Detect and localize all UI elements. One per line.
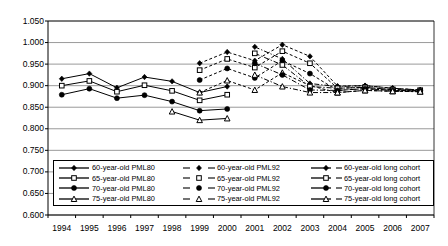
legend-item-label: 60-year-old long cohort [344, 164, 420, 171]
chart-legend: 60-year-old PML8060-year-old PML9260-yea… [53, 160, 434, 206]
legend-item-label: 70-year-old long cohort [344, 185, 420, 192]
y-axis-tick-label: 0.800 [6, 124, 44, 133]
legend-item[interactable]: 70-year-old PML80 [57, 183, 182, 193]
legend-item[interactable]: 75-year-old PML92 [182, 194, 309, 204]
data-point-marker-circle [252, 61, 257, 66]
legend-sample-line [182, 183, 216, 193]
data-point-marker-square [170, 89, 175, 94]
data-point-marker-square [280, 49, 285, 54]
data-point-marker-diamond [324, 165, 329, 170]
legend-sample-line [57, 194, 91, 204]
legend-item[interactable]: 70-year-old PML92 [182, 183, 309, 193]
legend-item[interactable]: 75-year-old PML80 [57, 194, 182, 204]
data-point-marker-square [115, 89, 120, 94]
data-point-marker-square [197, 68, 202, 73]
data-point-marker-square [324, 176, 329, 181]
legend-item-label: 65-year-old long cohort [344, 175, 420, 182]
x-axis-tick-label: 1994 [48, 224, 76, 233]
chart-container: 0.6000.6500.7000.7500.8000.8500.9000.950… [0, 0, 448, 246]
legend-item-label: 65-year-old PML92 [217, 175, 280, 182]
data-point-marker-circle [197, 78, 202, 83]
legend-sample-line [57, 163, 91, 173]
x-axis-tick-label: 1995 [75, 224, 103, 233]
legend-sample-line [182, 173, 216, 183]
legend-item-label: 75-year-old PML80 [92, 195, 155, 202]
data-point-marker-square [252, 51, 257, 56]
legend-item-label: 70-year-old PML92 [217, 185, 280, 192]
y-axis-tick-label: 0.750 [6, 146, 44, 155]
x-axis-tick-label: 2004 [324, 224, 352, 233]
data-point-marker-square [225, 57, 230, 62]
legend-sample-line [182, 194, 216, 204]
x-axis-tick-label: 2002 [268, 224, 296, 233]
y-axis-tick-label: 0.600 [6, 211, 44, 220]
x-axis-tick-label: 2003 [296, 224, 324, 233]
line-chart-plot [0, 0, 448, 246]
legend-item-label: 60-year-old PML92 [217, 164, 280, 171]
data-point-marker-circle [197, 108, 202, 113]
legend-item[interactable]: 65-year-old PML92 [182, 173, 309, 183]
data-point-marker-circle [307, 71, 312, 76]
data-point-marker-square [225, 92, 230, 97]
y-axis-tick-label: 1.050 [6, 17, 44, 26]
legend-sample-line [182, 163, 216, 173]
legend-sample-line [57, 183, 91, 193]
x-axis-tick-label: 2007 [406, 224, 434, 233]
data-point-marker-circle [114, 96, 119, 101]
x-axis-tick-label: 1997 [131, 224, 159, 233]
data-point-marker-circle [225, 66, 230, 71]
data-point-marker-circle [280, 72, 285, 77]
legend-item[interactable]: 60-year-old long cohort [309, 163, 432, 173]
legend-item[interactable]: 60-year-old PML92 [182, 163, 309, 173]
data-point-marker-triangle [196, 196, 202, 201]
x-axis-tick-label: 1999 [186, 224, 214, 233]
x-axis-tick-label: 2000 [213, 224, 241, 233]
data-point-marker-circle [87, 86, 92, 91]
data-point-marker-circle [142, 93, 147, 98]
data-point-marker-triangle [323, 196, 329, 201]
legend-item[interactable]: 65-year-old long cohort [309, 173, 432, 183]
x-axis-tick-label: 1998 [158, 224, 186, 233]
y-axis-tick-label: 0.650 [6, 189, 44, 198]
legend-item[interactable]: 65-year-old PML80 [57, 173, 182, 183]
legend-item[interactable]: 70-year-old long cohort [309, 183, 432, 193]
x-axis-tick-label: 2001 [241, 224, 269, 233]
data-point-marker-square [308, 61, 313, 66]
legend-item-label: 65-year-old PML80 [92, 175, 155, 182]
legend-sample-line [309, 183, 343, 193]
data-point-marker-circle [225, 106, 230, 111]
data-point-marker-square [280, 63, 285, 68]
legend-sample-line [309, 173, 343, 183]
y-axis-tick-label: 0.950 [6, 60, 44, 69]
y-axis-tick-label: 1.000 [6, 38, 44, 47]
data-point-marker-diamond [197, 165, 202, 170]
legend-sample-line [309, 194, 343, 204]
data-point-marker-square [197, 176, 202, 181]
data-point-marker-circle [197, 186, 202, 191]
data-point-marker-triangle [71, 196, 77, 201]
legend-item[interactable]: 75-year-old long cohort [309, 194, 432, 204]
legend-sample-line [309, 163, 343, 173]
x-axis-tick-label: 2005 [351, 224, 379, 233]
legend-item-label: 75-year-old PML92 [217, 195, 280, 202]
data-point-marker-circle [72, 186, 77, 191]
data-point-marker-square [87, 79, 92, 84]
x-axis-tick-label: 1996 [103, 224, 131, 233]
data-point-marker-circle [59, 92, 64, 97]
legend-item-label: 70-year-old PML80 [92, 185, 155, 192]
data-point-marker-square [197, 98, 202, 103]
data-point-marker-square [72, 176, 77, 181]
data-point-marker-diamond [72, 165, 77, 170]
legend-item[interactable]: 60-year-old PML80 [57, 163, 182, 173]
x-axis-tick-label: 2006 [379, 224, 407, 233]
y-axis-tick-label: 0.900 [6, 81, 44, 90]
legend-item-label: 60-year-old PML80 [92, 164, 155, 171]
y-axis-tick-label: 0.700 [6, 167, 44, 176]
data-point-marker-circle [170, 99, 175, 104]
legend-item-label: 75-year-old long cohort [344, 195, 420, 202]
data-point-marker-square [142, 83, 147, 88]
y-axis-tick-label: 0.850 [6, 103, 44, 112]
data-point-marker-square [59, 83, 64, 88]
data-point-marker-circle [324, 186, 329, 191]
legend-sample-line [57, 173, 91, 183]
